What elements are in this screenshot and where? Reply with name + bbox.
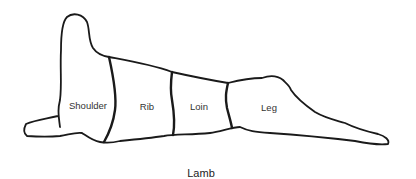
diagram-caption: Lamb — [187, 167, 215, 179]
cut-label-loin: Loin — [190, 101, 208, 112]
cut-label-rib: Rib — [140, 101, 154, 112]
cut-label-leg: Leg — [261, 102, 277, 113]
loin-leg-divider — [226, 83, 232, 128]
rib-loin-divider — [171, 72, 174, 135]
lamb-outline — [0, 0, 416, 179]
lamb-cuts-diagram: Shoulder Rib Loin Leg Lamb — [0, 0, 416, 179]
body-outline — [24, 14, 388, 144]
cut-label-shoulder: Shoulder — [69, 100, 107, 111]
